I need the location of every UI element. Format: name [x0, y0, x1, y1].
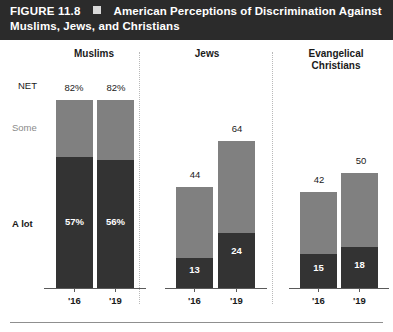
a-lot-value-evangelical-16: 15 — [300, 262, 337, 273]
x-tick-muslims-19 — [115, 288, 116, 292]
figure-bottom-rule — [10, 322, 383, 323]
net-value-evangelical-16: 42 — [299, 174, 339, 185]
axis-label-net: NET — [18, 80, 37, 91]
a-lot-value-evangelical-19: 18 — [341, 259, 378, 270]
panel-title-muslims: Muslims — [39, 48, 149, 60]
bar-evangelical-19[interactable] — [341, 173, 378, 288]
bar-segment-some — [341, 173, 378, 247]
bar-evangelical-16[interactable] — [300, 192, 337, 288]
figure-title-part-1: American Perceptions of Discrimination A… — [114, 5, 382, 17]
x-label-evangelical-19: '19 — [341, 295, 378, 306]
bar-muslims-19[interactable] — [97, 100, 134, 288]
x-tick-evangelical-16 — [318, 288, 319, 292]
x-tick-jews-16 — [194, 288, 195, 292]
net-value-jews-19: 64 — [217, 123, 257, 134]
x-tick-evangelical-19 — [359, 288, 360, 292]
panel-title-evangelical-line-1: Evangelical — [286, 48, 386, 60]
bar-muslims-16[interactable] — [56, 100, 93, 288]
figure-container: FIGURE 11.8 American Perceptions of Disc… — [0, 0, 393, 332]
bar-segment-a-lot — [218, 233, 255, 288]
figure-number: FIGURE 11.8 — [10, 5, 81, 17]
bar-segment-some — [56, 100, 93, 157]
net-value-evangelical-19: 50 — [341, 155, 381, 166]
bar-segment-some — [218, 141, 255, 233]
net-value-muslims-16: 82% — [54, 82, 94, 93]
x-tick-jews-19 — [236, 288, 237, 292]
x-label-jews-19: '19 — [218, 295, 255, 306]
x-axis-muslims — [44, 288, 146, 289]
panel-divider-2 — [272, 52, 273, 304]
panel-divider-1 — [139, 52, 140, 304]
bar-jews-19[interactable] — [218, 141, 255, 288]
chart-plot-area: Muslims Jews Evangelical Christians NET … — [0, 40, 393, 332]
bar-segment-some — [97, 100, 134, 160]
x-axis-jews — [165, 288, 267, 289]
axis-label-some: Some — [12, 122, 37, 133]
axis-label-a-lot: A lot — [12, 218, 33, 229]
square-bullet-icon — [93, 6, 101, 14]
a-lot-value-muslims-19: 56% — [97, 216, 134, 227]
bar-segment-some — [176, 187, 213, 258]
figure-title-line-1: FIGURE 11.8 American Perceptions of Disc… — [10, 5, 383, 17]
x-label-muslims-16: '16 — [56, 295, 93, 306]
x-label-jews-16: '16 — [176, 295, 213, 306]
x-label-evangelical-16: '16 — [300, 295, 337, 306]
x-axis-evangelical — [289, 288, 389, 289]
figure-title-bar: FIGURE 11.8 American Perceptions of Disc… — [0, 0, 393, 40]
x-tick-muslims-16 — [74, 288, 75, 292]
net-value-jews-16: 44 — [175, 169, 215, 180]
bar-segment-some — [300, 192, 337, 254]
panel-title-jews: Jews — [152, 48, 262, 60]
panel-title-evangelical-line-2: Christians — [286, 60, 386, 72]
panel-title-evangelical-christians: Evangelical Christians — [286, 48, 386, 72]
a-lot-value-jews-16: 13 — [176, 264, 213, 275]
x-label-muslims-19: '19 — [97, 295, 134, 306]
net-value-muslims-19: 82% — [96, 82, 136, 93]
figure-title-part-2: Muslims, Jews, and Christians — [10, 20, 383, 32]
a-lot-value-muslims-16: 57% — [56, 216, 93, 227]
a-lot-value-jews-19: 24 — [218, 245, 255, 256]
